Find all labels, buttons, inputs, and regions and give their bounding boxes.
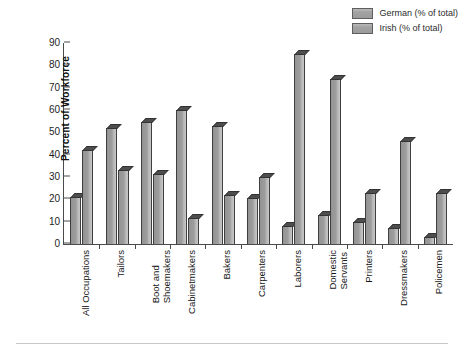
bar-german: [176, 110, 187, 244]
x-axis-label: Printers: [364, 250, 375, 283]
x-axis-label-cell: Bakers: [204, 250, 239, 346]
x-axis-label: Cabinetmakers: [187, 250, 198, 314]
x-axis-label-line: Policemen: [434, 250, 445, 294]
bar-irish: [224, 195, 235, 244]
x-axis-labels: All OccupationsTailorsBoot andShoemakers…: [63, 250, 452, 346]
y-axis-tick-label: 90: [49, 37, 60, 48]
x-axis-label: All Occupations: [81, 250, 92, 316]
x-axis-tick: [205, 244, 206, 249]
bar-group: [418, 43, 453, 244]
y-axis-tick-label: 10: [49, 215, 60, 226]
x-axis-label-cell: Cabinetmakers: [169, 250, 204, 346]
bar-german: [70, 197, 81, 244]
bar-group: [99, 43, 134, 244]
bar-irish: [118, 170, 129, 244]
x-axis-label-cell: Tailors: [98, 250, 133, 346]
x-axis-tick: [347, 244, 348, 249]
bar-irish: [153, 174, 164, 244]
y-axis-tick-label: 70: [49, 81, 60, 92]
bar-chart-figure: German (% of total) Irish (% of total) P…: [0, 0, 464, 352]
bar-irish: [436, 193, 447, 244]
bar-german: [106, 128, 117, 244]
chart-legend: German (% of total) Irish (% of total): [352, 7, 458, 34]
legend-swatch-irish-icon: [352, 23, 373, 34]
x-axis-label-line: Cabinetmakers: [187, 250, 198, 314]
bar-german: [247, 198, 258, 244]
bar-irish: [365, 193, 376, 244]
x-axis-label-cell: Dressmakers: [381, 250, 416, 346]
x-axis-label-line: Laborers: [293, 250, 304, 288]
x-axis-label: Tailors: [116, 250, 127, 277]
x-axis-label-cell: Policemen: [417, 250, 452, 346]
legend-item-irish: Irish (% of total): [352, 22, 442, 34]
y-axis-tick-label: 50: [49, 126, 60, 137]
legend-swatch-german-icon: [352, 8, 373, 19]
legend-label-irish: Irish (% of total): [379, 23, 442, 34]
bar-irish: [259, 177, 270, 244]
bar-group: [241, 43, 276, 244]
bar-group: [382, 43, 417, 244]
x-axis-label: Carpenters: [257, 250, 268, 297]
y-axis-tick-label: 0: [54, 238, 60, 249]
x-axis-label-line: All Occupations: [81, 250, 92, 316]
x-axis-tick: [99, 244, 100, 249]
x-axis-label: Bakers: [222, 250, 233, 280]
y-axis-tick-label: 40: [49, 148, 60, 159]
bar-german: [388, 228, 399, 244]
bar-german: [141, 122, 152, 244]
x-axis-label-cell: Boot andShoemakers: [134, 250, 169, 346]
x-axis-label: Laborers: [293, 250, 304, 288]
x-axis-label-cell: Carpenters: [240, 250, 275, 346]
bar-group: [347, 43, 382, 244]
bar-irish: [330, 79, 341, 244]
bar-group: [312, 43, 347, 244]
bar-irish: [294, 54, 305, 244]
x-axis-tick: [135, 244, 136, 249]
x-axis-label-line: Dressmakers: [399, 250, 410, 306]
bar-irish: [82, 150, 93, 244]
x-axis-label-cell: All Occupations: [63, 250, 98, 346]
y-axis-tick-label: 60: [49, 104, 60, 115]
bar-german: [212, 126, 223, 244]
x-axis-label-cell: Laborers: [275, 250, 310, 346]
x-axis-tick: [241, 244, 242, 249]
x-axis-label: Policemen: [434, 250, 445, 294]
bar-irish: [188, 218, 199, 244]
x-axis-label-cell: DomesticServants: [311, 250, 346, 346]
x-axis-tick: [170, 244, 171, 249]
legend-item-german: German (% of total): [352, 7, 458, 19]
x-axis-tick: [276, 244, 277, 249]
x-axis-label-line: Carpenters: [257, 250, 268, 297]
x-axis-label-line: Tailors: [116, 250, 127, 277]
x-axis-tick: [418, 244, 419, 249]
y-axis-tick-label: 30: [49, 171, 60, 182]
bar-group: [170, 43, 205, 244]
bar-german: [318, 215, 329, 244]
y-axis-tick-label: 80: [49, 59, 60, 70]
legend-label-german: German (% of total): [379, 8, 458, 19]
bar-group: [276, 43, 311, 244]
x-axis-label: Dressmakers: [399, 250, 410, 306]
bar-group: [135, 43, 170, 244]
bar-group: [64, 43, 99, 244]
x-axis-tick: [312, 244, 313, 249]
x-axis-label-line: Printers: [364, 250, 375, 283]
bar-group: [205, 43, 240, 244]
footer-divider: [16, 343, 448, 344]
x-axis-label-cell: Printers: [346, 250, 381, 346]
bar-german: [282, 226, 293, 244]
bar-german: [353, 222, 364, 244]
x-axis-label-line: Bakers: [222, 250, 233, 280]
bar-irish: [400, 141, 411, 244]
plot-area: Percent of Workforce 0102030405060708090: [63, 43, 453, 245]
bar-groups: [64, 43, 453, 244]
y-axis-tick-label: 20: [49, 193, 60, 204]
bar-german: [424, 237, 435, 244]
x-axis-tick: [382, 244, 383, 249]
